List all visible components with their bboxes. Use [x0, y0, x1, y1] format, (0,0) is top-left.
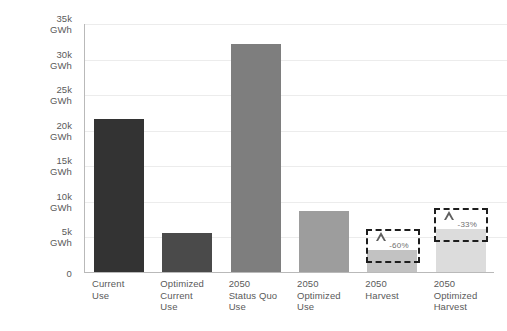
delta-badge: -60%: [366, 229, 420, 263]
bar-slot: [290, 23, 358, 272]
x-axis-tick-label: 2050 Harvest: [365, 278, 425, 301]
y-axis-tick-label: 15k GWh: [50, 155, 72, 177]
y-axis-tick-label: 0: [67, 268, 72, 279]
x-axis-tick-label: 2050 Status Quo Use: [229, 278, 289, 313]
x-axis-tick-label: Optimized Current Use: [160, 278, 220, 313]
bar-slot: [222, 23, 290, 272]
x-axis-tick-label: 2050 Optimized Harvest: [434, 278, 494, 313]
y-axis-tick-label: 30k GWh: [50, 49, 72, 71]
y-axis-tick-label: 20k GWh: [50, 120, 72, 142]
y-axis-tick-label: 5k GWh: [50, 226, 72, 248]
bar-slot: [85, 23, 153, 272]
y-axis: 05k GWh10k GWh15k GWh20k GWh25k GWh30k G…: [0, 0, 78, 331]
bar-series: -60%-33%: [85, 24, 494, 272]
plot-area: -60%-33%: [84, 24, 494, 273]
delta-percent-label: -60%: [389, 241, 408, 250]
delta-triangle-icon: [376, 241, 386, 250]
bar-chart: 05k GWh10k GWh15k GWh20k GWh25k GWh30k G…: [0, 0, 507, 331]
delta-badge: -33%: [434, 208, 488, 242]
delta-percent-label: -33%: [458, 220, 477, 229]
x-axis-tick-label: 2050 Optimized Use: [297, 278, 357, 313]
x-axis-tick-label: Current Use: [92, 278, 152, 301]
bar[interactable]: [231, 44, 281, 272]
delta-triangle-icon: [445, 220, 455, 229]
x-axis: Current UseOptimized Current Use2050 Sta…: [84, 278, 494, 331]
y-axis-tick-label: 35k GWh: [50, 13, 72, 35]
bar[interactable]: [94, 119, 144, 272]
bar-slot: [153, 23, 221, 272]
bar[interactable]: [162, 233, 212, 272]
bar[interactable]: [299, 211, 349, 272]
y-axis-tick-label: 10k GWh: [50, 191, 72, 213]
y-axis-tick-label: 25k GWh: [50, 84, 72, 106]
